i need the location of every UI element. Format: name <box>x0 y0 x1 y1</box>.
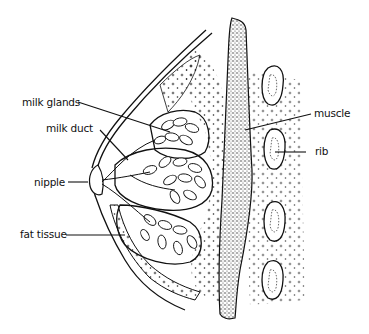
label-fat-tissue: fat tissue <box>20 228 67 240</box>
milk-gland-lobules <box>139 117 208 256</box>
label-milk-glands: milk glands <box>22 96 80 108</box>
nipple-shape <box>89 165 103 195</box>
muscle-shape <box>219 18 252 319</box>
label-muscle: muscle <box>314 107 350 119</box>
label-rib: rib <box>315 145 328 157</box>
breast-anatomy-diagram <box>0 0 369 334</box>
label-milk-duct: milk duct <box>46 122 93 134</box>
label-nipple: nipple <box>34 176 65 188</box>
